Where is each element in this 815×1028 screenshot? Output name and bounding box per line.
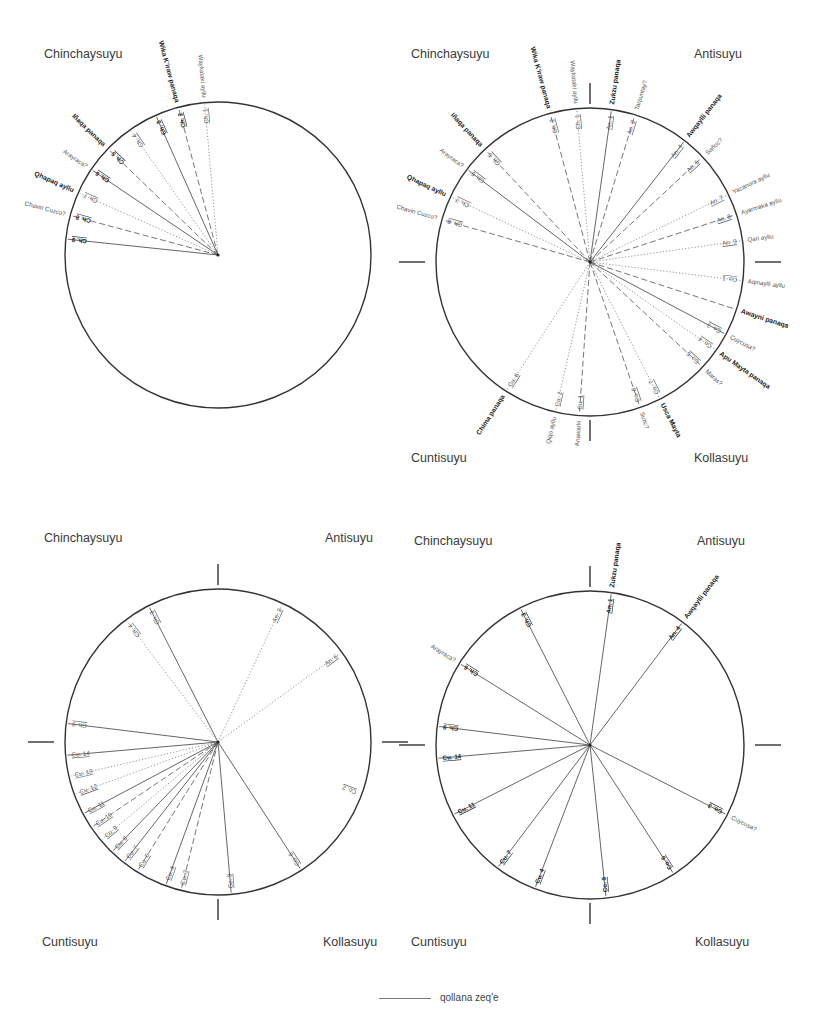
ayllu-panaqa-name: Waykatakí ayllu (569, 60, 580, 104)
ceque-label: Cu. 11 (86, 799, 105, 814)
ceque-spoke: Co. 7Usca Mayta (590, 262, 683, 439)
suyu-label: Kollasuyu (323, 935, 377, 949)
ayllu-panaqa-name: Cuycusa? (730, 814, 758, 833)
ceque-label: Co. 1 (721, 275, 737, 284)
ceque-line-dashed (72, 216, 218, 255)
ayllu-panaqa-name: Qhapaq ayllu (406, 173, 448, 198)
ceque-label: Co. 3 (705, 322, 722, 335)
ceque-label: Ch. 7 (454, 197, 471, 210)
ceque-label: Co. 9 (225, 873, 233, 889)
ceque-line-dashed (486, 151, 590, 262)
ceque-label: Cu. 9 (103, 824, 119, 839)
ayllu-panaqa-name: Awayni panaqa (740, 307, 790, 330)
ceque-label: Ch. 6 (462, 664, 479, 678)
ceque-spoke: Awayni panaqa (590, 262, 790, 330)
ceque-label: Cu. 14 (442, 752, 462, 761)
ceque-line-dashed (590, 117, 634, 262)
ceque-line-solid (590, 745, 673, 872)
ceque-spoke: Cu. 8 (113, 742, 218, 851)
ceque-spoke: Cu. 3 (179, 742, 218, 889)
ceque-label: An. 5 (685, 158, 701, 173)
ceque-line-dotted (127, 621, 218, 742)
ceque-line-dashed (551, 115, 590, 262)
ceque-label: Ch. 2 (176, 112, 187, 129)
ayllu-panaqa-name: Chavin Cuzco? (24, 199, 67, 217)
diagram-top-right: ChinchaysuyuAntisuyuCuntisuyuKollasuyuCh… (396, 46, 790, 465)
ceque-system-diagrams: ChinchaysuyuCh. 1Waykatakí aylluCh. 2Wik… (0, 0, 815, 1028)
ceque-line-dashed (93, 742, 218, 826)
ayllu-panaqa-name: Tarpuntay? (633, 79, 649, 111)
ceque-line-dotted (590, 241, 741, 262)
ceque-label: Co. 4 (696, 336, 713, 351)
ayllu-panaqa-name: Usca Mayta (659, 402, 683, 439)
ceque-line-solid (590, 624, 681, 745)
ceque-label: Cu. 11 (456, 800, 476, 815)
ceque-spoke: Ch. 2Wika K'iraw panaqa (529, 46, 590, 262)
ceque-spoke: Co. 6 (218, 742, 301, 869)
ayllu-panaqa-name: Chima panaqa (475, 393, 507, 437)
ceque-label: Ch. 9 (71, 721, 87, 730)
ceque-line-solid (469, 171, 590, 262)
ceque-line-dashed (181, 742, 218, 889)
ceque-line-dotted (218, 653, 340, 742)
ceque-label: Ch. 7 (82, 192, 99, 205)
ceque-label: Cu. 14 (71, 749, 90, 758)
ceque-spoke: An. 1Zukzu panaqa (590, 542, 622, 745)
ceque-spoke: Co. 3Cuycusa? (590, 745, 758, 833)
suyu-label: Antisuyu (697, 534, 745, 548)
ceque-label: Co. 9 (600, 876, 609, 892)
ceque-line-dotted (76, 742, 218, 794)
ceque-line-solid (68, 742, 218, 755)
center-point (216, 253, 219, 256)
ceque-label: Cu. 4 (164, 864, 176, 881)
ceque-label: Ch. 9 (442, 724, 458, 733)
ceque-line-solid (218, 742, 231, 892)
ceque-spoke: Cu. 10 (93, 742, 218, 827)
ceque-label: An. 1 (605, 597, 614, 614)
ayllu-panaqa-name: Sañoc? (704, 136, 725, 156)
ceque-label: Co. 5 (684, 350, 700, 366)
ayllu-panaqa-name: Iñaqa panaqa (70, 112, 107, 148)
ceque-line-solid (68, 724, 218, 742)
legend-solid-line-swatch (379, 998, 431, 999)
ceque-spoke: Ch. 9 (439, 724, 590, 745)
ceque-label: Ch. 3 (154, 119, 167, 136)
ceque-line-dotted (131, 131, 218, 255)
ayllu-panaqa-name: Awqaylli panaqa (685, 92, 724, 139)
ceque-line-solid (439, 726, 590, 745)
ceque-spoke: Co. 2 (340, 784, 357, 796)
ceque-label: Ch. 4 (130, 132, 145, 149)
ceque-spoke: Ch. 3 (147, 607, 218, 742)
ceque-label: Co. 3 (706, 802, 723, 815)
ayllu-panaqa-name: Anawarki (573, 420, 582, 446)
ceque-label: Cu. 4 (533, 867, 545, 884)
ayllu-panaqa-name: Zukzu panaqa (608, 542, 622, 588)
ceque-line-solid (68, 239, 218, 255)
ceque-spoke: Cu. 4 (533, 745, 590, 887)
ceque-label: Cu. 13 (74, 767, 94, 778)
ceque-line-solid (218, 742, 300, 869)
suyu-label: Antisuyu (694, 47, 742, 61)
ceque-label: Ch. 1 (201, 108, 209, 124)
diagram-bottom-right: ChinchaysuyuAntisuyuCuntisuyuKollasuyuCh… (399, 534, 781, 949)
ceque-line-solid (461, 664, 590, 745)
ceque-spoke: Cu. 2Qiqo ayllu (544, 262, 590, 444)
ayllu-panaqa-name: Apu Mayta panaqa (718, 350, 772, 391)
ceque-spoke: Cu. 4 (164, 742, 218, 884)
ceque-spoke: An. 8Ayarmaka ayllu (590, 196, 783, 262)
ceque-label: Ch. 3 (147, 609, 160, 626)
ceque-label: Cu. 3 (179, 869, 190, 886)
ceque-spoke: Cu. 6Chima panaqa (475, 262, 590, 436)
ceque-label: An. 2 (625, 119, 636, 135)
ceque-line-dashed (590, 158, 701, 262)
ceque-line-solid (499, 745, 590, 866)
ceque-diagrams-figure: ChinchaysuyuCh. 1Waykatakí aylluCh. 2Wik… (0, 0, 815, 1028)
ceque-line-dotted (590, 262, 659, 397)
suyu-label: Cuntisuyu (42, 935, 98, 949)
ceque-label: Cu. 1 (576, 394, 584, 410)
ceque-label: Ch. 5 (486, 151, 502, 167)
ceque-line-solid (536, 745, 590, 887)
ceque-line-dashed (109, 150, 218, 255)
suyu-label: Chinchaysuyu (414, 534, 493, 548)
ceque-spoke: Ch. 1Waykatakí ayllu (197, 54, 218, 255)
